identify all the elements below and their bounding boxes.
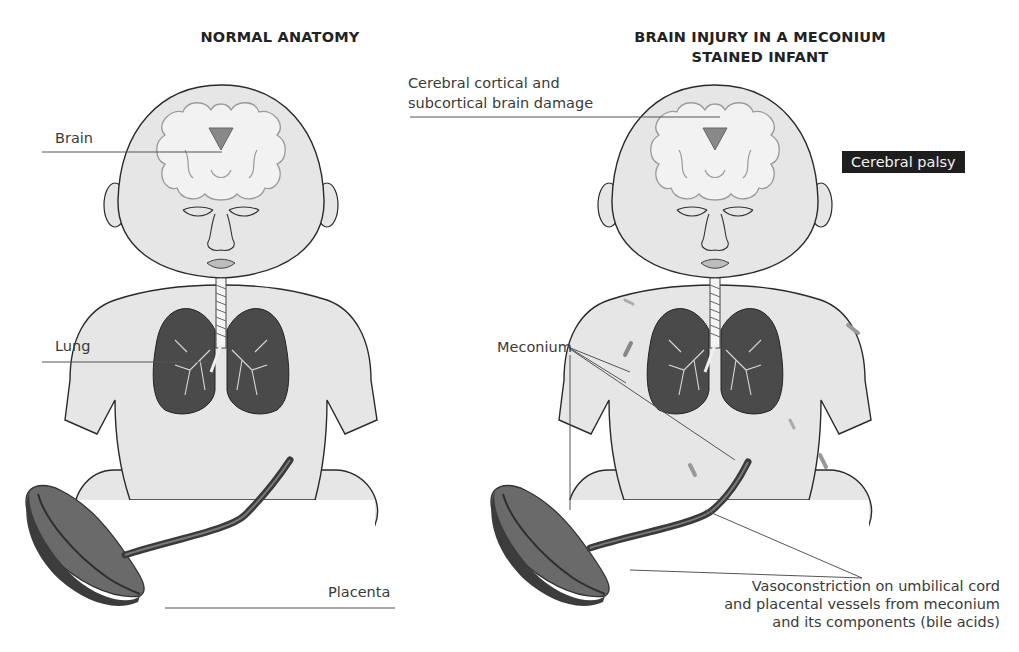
vasoconstriction-label-line3: and its components (bile acids) xyxy=(660,613,1000,631)
normal-anatomy-heading: NORMAL ANATOMY xyxy=(195,27,365,47)
brain-damage-label-line2: subcortical brain damage xyxy=(408,93,593,113)
brain-injury-heading: BRAIN INJURY IN A MECONIUM STAINED INFAN… xyxy=(600,27,920,67)
brain-injury-heading-line1: BRAIN INJURY IN A MECONIUM xyxy=(600,27,920,47)
lung-label: Lung xyxy=(55,336,90,356)
placenta-label: Placenta xyxy=(328,582,390,602)
meconium-label: Meconium xyxy=(497,337,572,357)
vasoconstriction-label-line2: and placental vessels from meconium xyxy=(660,595,1000,613)
brain-injury-heading-line2: STAINED INFANT xyxy=(600,47,920,67)
brain-label: Brain xyxy=(55,128,93,148)
vasoconstriction-label: Vasoconstriction on umbilical cord and p… xyxy=(660,577,1000,631)
brain-damage-label: Cerebral cortical and subcortical brain … xyxy=(408,73,593,113)
vasoconstriction-label-line1: Vasoconstriction on umbilical cord xyxy=(660,577,1000,595)
cerebral-palsy-badge: Cerebral palsy xyxy=(842,151,965,173)
brain-damage-label-line1: Cerebral cortical and xyxy=(408,73,593,93)
